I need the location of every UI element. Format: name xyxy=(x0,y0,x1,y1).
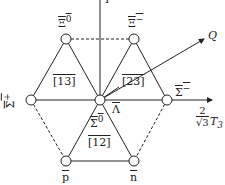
dashed-edge-lower-right xyxy=(134,100,167,161)
edge xyxy=(100,39,134,100)
t3-axis-label: 2 √3 xyxy=(196,106,209,128)
label-sigmaplus: Σ+ xyxy=(3,93,17,108)
node-sigmaplus xyxy=(26,95,36,105)
label-ximinus: Ξ− xyxy=(128,15,143,29)
node-xi0 xyxy=(61,34,71,44)
label-sigmaminus: Σ− xyxy=(175,84,190,98)
node-sigmaminus xyxy=(162,95,172,105)
edge xyxy=(66,100,100,161)
weight-diagram-canvas xyxy=(0,0,225,185)
node-n xyxy=(129,156,139,166)
dashed-edge-lower-left xyxy=(31,100,66,161)
node-center xyxy=(95,95,105,105)
label-p: p xyxy=(62,172,69,183)
node-p xyxy=(61,156,71,166)
t3-denominator: √3 xyxy=(196,116,209,128)
triangle-label-12: [12] xyxy=(88,137,111,148)
label-sigma0: Σ0 xyxy=(90,115,104,129)
t3-numerator: 2 xyxy=(196,106,209,116)
label-lambda: Λ xyxy=(112,104,120,115)
edge xyxy=(31,39,66,100)
triangle-label-23: [23] xyxy=(122,76,145,87)
label-xi0: Ξ0 xyxy=(58,15,71,29)
triangle-label-13: [13] xyxy=(53,76,76,87)
y-axis-label: Y xyxy=(104,0,111,5)
edge xyxy=(134,39,167,100)
node-ximinus xyxy=(129,34,139,44)
label-n: n xyxy=(130,172,137,183)
q-axis-label: Q xyxy=(208,30,217,41)
t3-var: T3 xyxy=(210,116,223,130)
edge xyxy=(66,39,100,100)
